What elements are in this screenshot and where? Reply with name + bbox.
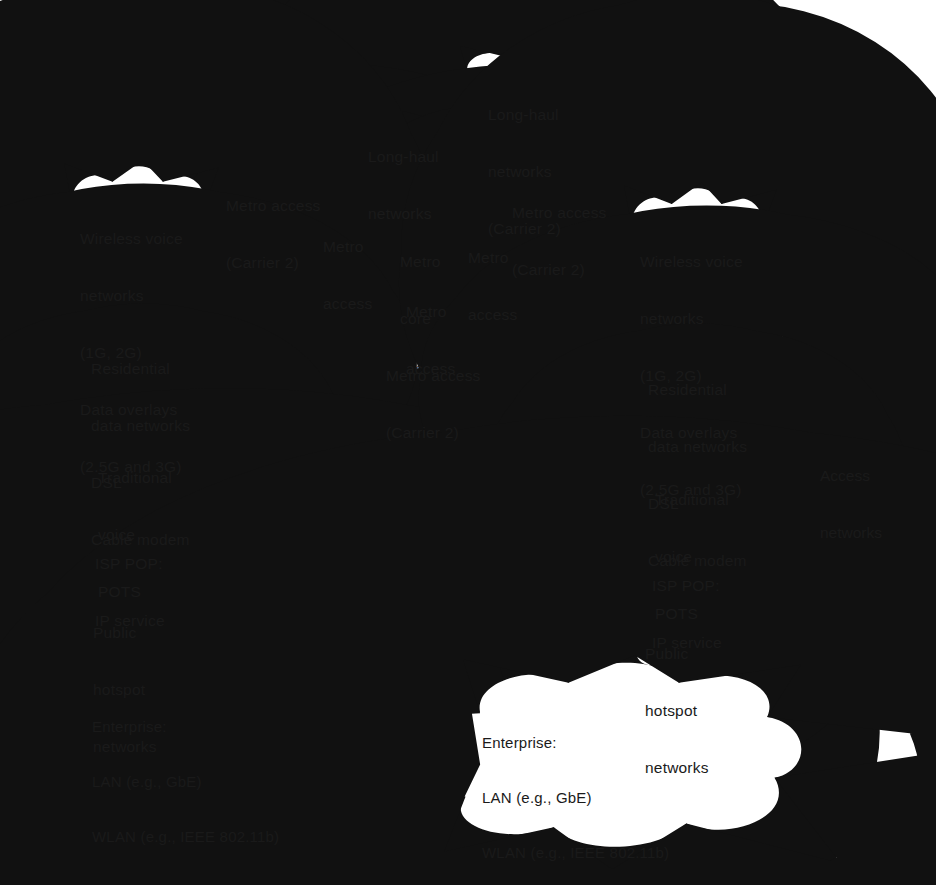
label-access-networks: Access networks — [820, 428, 882, 580]
label-metro-access-left: Metro access — [323, 199, 372, 351]
label-metro-access-carrier2-left: Metro access (Carrier 2) — [226, 158, 321, 310]
label-right-enterprise: Enterprise: LAN (e.g., GbE) WLAN (e.g., … — [482, 697, 721, 885]
label-metro-access-carrier2-bottom: Metro access (Carrier 2) — [386, 328, 481, 480]
label-metro-access-carrier2-right: Metro access (Carrier 2) — [512, 165, 607, 317]
label-left-enterprise: Enterprise: LAN (e.g., GbE) WLAN (e.g., … — [92, 681, 331, 885]
network-diagram: Long-haul networks Long-haul networks (C… — [0, 0, 936, 885]
